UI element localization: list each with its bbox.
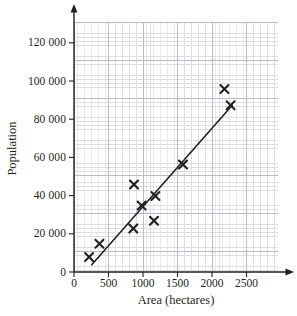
- y-tick-label: 40 000: [34, 190, 66, 202]
- x-tick-label: 1000: [132, 278, 155, 290]
- x-tick-label: 2000: [201, 278, 224, 290]
- y-tick-label: 120 000: [28, 37, 66, 49]
- chart-figure: 0 20 000 40 000 60 000 80 000 100 000 12…: [0, 0, 297, 316]
- x-tick-label: 500: [100, 278, 117, 290]
- x-tick-label: 2500: [235, 278, 258, 290]
- data-point: [85, 253, 93, 261]
- y-tick-label: 0: [60, 267, 66, 279]
- y-axis-ticks: [69, 43, 74, 272]
- y-tick-label: 100 000: [28, 76, 66, 88]
- trendline: [91, 105, 232, 265]
- x-tick-label: 0: [71, 278, 77, 290]
- data-point: [220, 85, 228, 93]
- x-axis-tick-labels: 0 500 1000 1500 2000 2500: [0, 278, 297, 294]
- data-points: [85, 85, 235, 261]
- y-axis-title: Population: [6, 84, 19, 214]
- y-tick-label: 20 000: [34, 228, 66, 240]
- x-tick-label: 1500: [166, 278, 189, 290]
- data-point: [150, 217, 158, 225]
- data-point: [130, 181, 138, 189]
- y-tick-label: 80 000: [34, 114, 66, 126]
- data-point: [129, 224, 137, 232]
- data-point: [95, 240, 103, 248]
- y-tick-label: 60 000: [34, 152, 66, 164]
- x-axis-title: Area (hectares): [74, 294, 278, 307]
- axis-lines: [71, 4, 294, 275]
